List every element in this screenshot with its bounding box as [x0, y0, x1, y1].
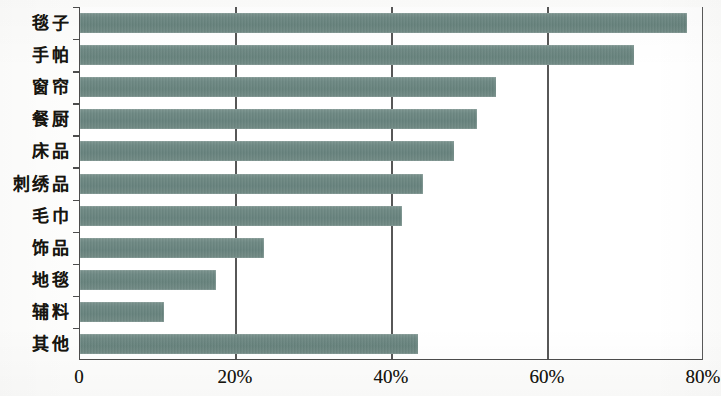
bar	[80, 174, 423, 194]
y-axis-tick	[73, 135, 80, 136]
y-axis-label: 手帕	[32, 45, 71, 65]
bar	[80, 270, 216, 290]
y-axis-tick	[73, 167, 80, 168]
y-axis-label: 毯子	[32, 13, 71, 33]
bar	[80, 141, 454, 161]
y-axis-label: 辅料	[32, 302, 71, 322]
x-axis-label: 80%	[686, 364, 721, 390]
y-axis-tick	[73, 7, 80, 8]
bar-chart: 毯子手帕窗帘餐厨床品刺绣品毛巾饰品地毯辅料其他 020%40%60%80%	[0, 0, 721, 396]
y-axis-tick	[73, 296, 80, 297]
y-axis-tick	[73, 232, 80, 233]
x-axis-label: 0	[74, 364, 84, 390]
y-axis-tick	[73, 264, 80, 265]
x-axis-label: 40%	[374, 364, 409, 390]
bar	[80, 109, 477, 129]
y-axis-label: 其他	[32, 334, 71, 354]
y-axis-label: 床品	[32, 141, 71, 161]
y-axis-label: 窗帘	[32, 77, 71, 97]
y-axis-tick	[73, 328, 80, 329]
y-axis-label: 毛巾	[32, 206, 71, 226]
plot-area	[79, 7, 703, 360]
y-axis-tick	[73, 103, 80, 104]
y-axis-label: 饰品	[32, 238, 71, 258]
bar	[80, 334, 418, 354]
y-axis-tick	[73, 200, 80, 201]
bar	[80, 45, 634, 65]
x-axis-label: 60%	[530, 364, 565, 390]
y-axis-label: 刺绣品	[13, 174, 72, 194]
bar	[80, 13, 687, 33]
y-axis-label: 餐厨	[32, 109, 71, 129]
bar	[80, 206, 402, 226]
bar	[80, 302, 164, 322]
bar	[80, 77, 496, 97]
x-axis-label: 20%	[218, 364, 253, 390]
bar	[80, 238, 264, 258]
y-axis-tick	[73, 71, 80, 72]
y-axis-labels: 毯子手帕窗帘餐厨床品刺绣品毛巾饰品地毯辅料其他	[0, 7, 71, 360]
y-axis-label: 地毯	[32, 270, 71, 290]
y-axis-tick	[73, 39, 80, 40]
x-axis-labels: 020%40%60%80%	[0, 364, 721, 396]
